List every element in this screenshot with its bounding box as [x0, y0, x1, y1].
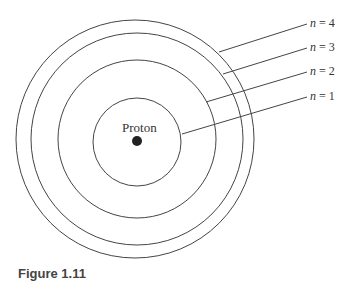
label-n2: n = 2 [310, 64, 335, 79]
proton-dot [132, 136, 142, 146]
leader-n3 [223, 48, 307, 74]
leader-n4 [219, 24, 307, 52]
leader-n1 [182, 97, 307, 134]
label-n3: n = 3 [310, 40, 335, 55]
leader-n2 [206, 72, 307, 102]
proton-label: Proton [122, 120, 157, 136]
label-n1: n = 1 [310, 89, 335, 104]
figure-caption: Figure 1.11 [18, 266, 86, 281]
label-n4: n = 4 [310, 16, 335, 31]
